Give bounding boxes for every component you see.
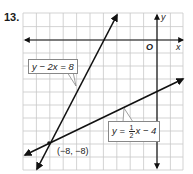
grid: [23, 13, 183, 170]
fraction-one-half: 1 2: [129, 124, 135, 139]
intersection-point: [47, 141, 51, 145]
x-axis-label: x: [176, 42, 181, 52]
fraction-numerator: 1: [129, 124, 135, 132]
intersection-label: (−8, −8): [57, 146, 89, 156]
shallow-label-pointer: [123, 108, 133, 122]
equation-rhs: x − 4: [136, 125, 157, 136]
coordinate-graph: [0, 0, 193, 174]
y-axis-label: y: [161, 12, 166, 22]
equation-lhs: y: [112, 125, 117, 136]
fraction-denominator: 2: [129, 132, 135, 139]
equation-equals: =: [119, 125, 125, 136]
shallow-line-equation-label: y = 1 2 x − 4: [108, 121, 160, 142]
steep-line-equation-label: y − 2x = 8: [28, 59, 78, 74]
origin-label: O: [146, 42, 153, 52]
